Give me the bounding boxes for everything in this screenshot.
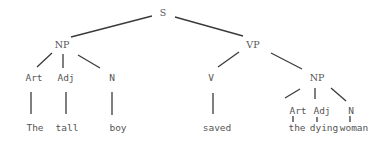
word-the: The	[26, 123, 43, 133]
edge-s-np1	[71, 16, 152, 37]
node-vp: VP	[246, 40, 259, 50]
edge-np2-art2	[285, 89, 300, 98]
edge-vp-v	[218, 52, 239, 67]
edge-np1-art1	[37, 53, 52, 67]
node-np-subject: NP	[55, 40, 70, 50]
node-v: V	[208, 73, 214, 83]
edge-vp-np2	[271, 53, 302, 69]
node-np-object: NP	[310, 73, 325, 83]
word-tall: tall	[56, 123, 79, 133]
node-adj-object: Adj	[313, 106, 330, 116]
word-the-object: the	[288, 123, 305, 133]
node-art-subject: Art	[25, 73, 42, 83]
edge-np1-n1	[78, 55, 100, 68]
node-n-subject: N	[109, 73, 115, 83]
edge-s-vp	[175, 17, 243, 36]
syntax-tree-diagram: S NP VP Art Adj N V NP Art Adj N The tal…	[0, 0, 392, 145]
node-n-object: N	[348, 106, 354, 116]
word-boy: boy	[109, 123, 126, 133]
edge-np2-n2	[331, 88, 346, 101]
node-adj-subject: Adj	[57, 73, 74, 83]
word-woman: woman	[340, 123, 369, 133]
word-dying: dying	[310, 123, 339, 133]
node-s: S	[160, 8, 167, 18]
word-saved: saved	[203, 123, 232, 133]
node-art-object: Art	[289, 106, 306, 116]
